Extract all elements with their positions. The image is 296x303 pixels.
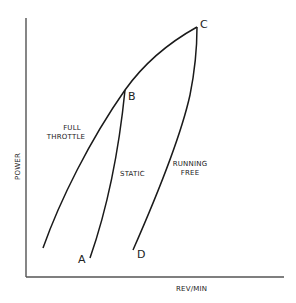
full-throttle-label-line2: THROTTLE — [46, 133, 85, 141]
x-axis-label: REV/MIN — [176, 285, 207, 293]
point-b-label: B — [128, 90, 136, 103]
running-free-label-line1: RUNNING — [173, 160, 208, 168]
full-throttle-label-line1: FULL — [63, 124, 81, 132]
point-a-label: A — [78, 253, 86, 266]
power-rev-diagram: B C A D FULL THROTTLE STATIC RUNNING FRE… — [0, 0, 296, 303]
point-c-label: C — [200, 18, 208, 31]
point-d-label: D — [137, 248, 145, 261]
running-free-label-line2: FREE — [181, 169, 200, 177]
static-label: STATIC — [120, 170, 145, 178]
y-axis-label: POWER — [14, 153, 22, 180]
running-free-curve — [133, 27, 197, 250]
